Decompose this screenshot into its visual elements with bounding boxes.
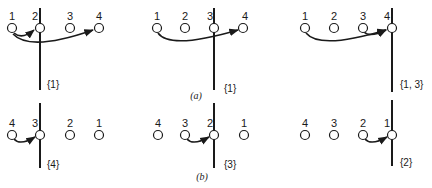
node-label: 3 xyxy=(32,117,38,129)
node-label: 3 xyxy=(182,117,188,129)
node xyxy=(330,131,339,140)
arrow-4-to-3 xyxy=(14,137,35,142)
set-label: {1} xyxy=(224,83,237,94)
node-label: 3 xyxy=(67,10,73,22)
node xyxy=(36,131,45,140)
panel-a1: 1 2 3 4 {1} xyxy=(8,8,104,90)
arrow-1-to-2 xyxy=(14,30,34,36)
node-label: 2 xyxy=(67,117,73,129)
node-label: 1 xyxy=(154,10,160,22)
arrow-1-to-4 xyxy=(158,30,238,41)
node-label: 2 xyxy=(331,10,337,22)
node xyxy=(301,24,310,33)
node xyxy=(210,24,219,33)
node-label: 4 xyxy=(302,117,308,129)
set-label: {3} xyxy=(224,159,237,170)
node xyxy=(36,24,45,33)
node xyxy=(359,131,368,140)
node-label: 1 xyxy=(9,10,15,22)
panel-b1: 4 3 2 1 {4} xyxy=(8,103,104,170)
node xyxy=(388,131,397,140)
node xyxy=(66,24,75,33)
node xyxy=(210,131,219,140)
node-label: 4 xyxy=(155,117,161,129)
arrow-1-to-4 xyxy=(306,30,386,41)
node xyxy=(181,131,190,140)
node-label: 3 xyxy=(360,10,366,22)
node-label: 4 xyxy=(242,10,248,22)
panel-a2: 1 2 3 4 {1} xyxy=(153,8,249,94)
node-label: 2 xyxy=(182,10,188,22)
node xyxy=(330,24,339,33)
diagram-canvas: 1 2 3 4 {1} 1 2 3 4 {1} 1 2 3 4 xyxy=(0,0,432,188)
node-label: 1 xyxy=(384,117,390,129)
node xyxy=(388,24,397,33)
panel-b3: 4 3 2 1 {2} xyxy=(301,100,413,168)
caption-a: (a) xyxy=(190,90,202,102)
node xyxy=(66,131,75,140)
node xyxy=(154,131,163,140)
node xyxy=(301,131,310,140)
set-label: {4} xyxy=(47,159,60,170)
node-label: 2 xyxy=(32,10,38,22)
node xyxy=(153,24,162,33)
node-label: 3 xyxy=(331,117,337,129)
set-label: {1, 3} xyxy=(400,79,424,90)
node xyxy=(239,24,248,33)
set-label: {1} xyxy=(47,79,60,90)
node xyxy=(8,131,17,140)
node-label: 4 xyxy=(96,10,102,22)
node-label: 4 xyxy=(384,10,390,22)
panel-b2: 4 3 2 1 {3} xyxy=(154,103,249,170)
caption-b: (b) xyxy=(196,171,208,183)
node xyxy=(95,131,104,140)
node-label: 4 xyxy=(9,117,15,129)
node-label: 1 xyxy=(96,117,102,129)
node xyxy=(240,131,249,140)
panel-a3: 1 2 3 4 {1, 3} xyxy=(301,8,425,92)
node-label: 1 xyxy=(302,10,308,22)
node-label: 1 xyxy=(241,117,247,129)
node-label: 3 xyxy=(207,10,213,22)
node xyxy=(359,24,368,33)
node xyxy=(95,24,104,33)
node xyxy=(181,24,190,33)
arrow-2-to-1 xyxy=(365,137,387,142)
arrow-3-to-2 xyxy=(187,137,209,142)
node xyxy=(8,24,17,33)
node-label: 2 xyxy=(207,117,213,129)
set-label: {2} xyxy=(400,157,413,168)
node-label: 2 xyxy=(360,117,366,129)
